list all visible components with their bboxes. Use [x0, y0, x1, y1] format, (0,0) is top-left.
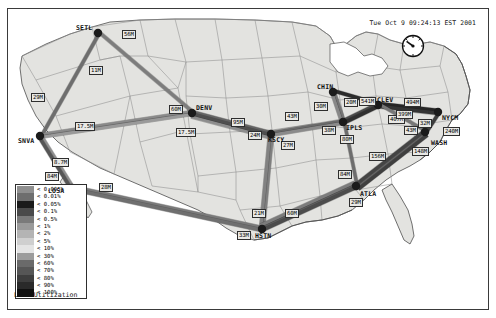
- legend-color-swatch: [17, 193, 34, 200]
- link-bandwidth-label[interactable]: 399M: [396, 110, 413, 119]
- node-label-nycm: NYCM: [442, 114, 458, 122]
- link-bandwidth-label[interactable]: 43M: [285, 112, 299, 121]
- router-node-nycm[interactable]: [434, 108, 442, 116]
- legend-threshold-label: < 30%: [34, 253, 54, 260]
- legend-color-swatch: [17, 238, 34, 245]
- legend-color-swatch: [17, 216, 34, 223]
- legend-color-swatch: [17, 208, 34, 215]
- link-bandwidth-label[interactable]: 80M: [340, 135, 354, 144]
- link-bandwidth-label[interactable]: 33M: [237, 231, 251, 240]
- legend-threshold-label: < 2%: [34, 230, 50, 237]
- legend-color-swatch: [17, 186, 34, 193]
- legend-title: Line Utilization: [14, 291, 78, 299]
- legend-threshold-label: < 1%: [34, 223, 50, 230]
- router-node-snva[interactable]: [36, 132, 44, 140]
- link-bandwidth-label[interactable]: 21M: [252, 209, 266, 218]
- legend-row: < 70%: [17, 267, 85, 274]
- legend-color-swatch: [17, 245, 34, 252]
- link-bandwidth-label[interactable]: 541M: [359, 97, 376, 106]
- node-label-ipls: IPLS: [346, 124, 362, 132]
- link-bandwidth-label[interactable]: 29M: [31, 93, 45, 102]
- line-utilization-legend: < 0.005%< 0.01%< 0.05%< 0.1%< 0.5%< 1%< …: [15, 184, 87, 299]
- link-bandwidth-label[interactable]: 30M: [314, 102, 328, 111]
- legend-row: < 0.5%: [17, 216, 85, 223]
- legend-threshold-label: < 5%: [34, 238, 50, 245]
- link-bandwidth-label[interactable]: 20M: [344, 98, 358, 107]
- legend-threshold-label: < 70%: [34, 267, 54, 274]
- link-bandwidth-label[interactable]: 24M: [248, 131, 262, 140]
- legend-color-swatch: [17, 223, 34, 230]
- node-label-atla: ATLA: [360, 190, 376, 198]
- florida-peninsula: [382, 184, 414, 244]
- link-bandwidth-label[interactable]: 28M: [99, 183, 113, 192]
- link-bandwidth-label[interactable]: 84M: [338, 170, 352, 179]
- legend-color-swatch: [17, 267, 34, 274]
- link-bandwidth-label[interactable]: 156M: [369, 152, 386, 161]
- legend-threshold-label: < 10%: [34, 245, 54, 252]
- legend-row: < 80%: [17, 275, 85, 282]
- legend-row: < 30%: [17, 253, 85, 260]
- legend-threshold-label: < 0.1%: [34, 208, 57, 215]
- legend-threshold-label: < 80%: [34, 275, 54, 282]
- legend-color-swatch: [17, 253, 34, 260]
- link-bandwidth-label[interactable]: 32M: [418, 119, 432, 128]
- node-label-chin: CHIN: [317, 83, 333, 91]
- weathermap-window: Tue Oct 9 09:24:13 EST 2001 < 0.005%< 0.…: [0, 0, 496, 318]
- router-node-wash[interactable]: [421, 128, 429, 136]
- link-bandwidth-label[interactable]: 240M: [443, 127, 460, 136]
- legend-threshold-label: < 90%: [34, 282, 54, 289]
- link-bandwidth-label[interactable]: 29M: [349, 198, 363, 207]
- router-node-setl[interactable]: [94, 29, 102, 37]
- link-bandwidth-label[interactable]: 60M: [285, 209, 299, 218]
- link-bandwidth-label[interactable]: 84M: [45, 172, 59, 181]
- link-bandwidth-label[interactable]: 17.5M: [176, 128, 196, 137]
- node-label-clev: CLEV: [377, 96, 393, 104]
- node-label-denv: DENV: [196, 104, 212, 112]
- legend-color-swatch: [17, 282, 34, 289]
- node-label-hstn: HSTN: [255, 232, 271, 240]
- legend-row: < 5%: [17, 238, 85, 245]
- node-label-setl: SETL: [76, 24, 92, 32]
- legend-row: < 10%: [17, 245, 85, 252]
- node-label-wash: WASH: [431, 139, 447, 147]
- legend-threshold-label: < 60%: [34, 260, 54, 267]
- speedometer-gauge-icon: [400, 33, 426, 59]
- node-label-kscy: KSCY: [268, 136, 284, 144]
- node-label-losa: LOSA: [48, 187, 64, 195]
- legend-color-swatch: [17, 275, 34, 282]
- link-bandwidth-label[interactable]: 148M: [412, 147, 429, 156]
- link-bandwidth-label[interactable]: 95M: [231, 118, 245, 127]
- legend-row: < 60%: [17, 260, 85, 267]
- link-bandwidth-label[interactable]: 43M: [404, 126, 418, 135]
- legend-threshold-label: < 0.5%: [34, 216, 57, 223]
- legend-row: < 0.1%: [17, 208, 85, 215]
- timestamp: Tue Oct 9 09:24:13 EST 2001: [369, 19, 476, 27]
- legend-color-swatch: [17, 260, 34, 267]
- legend-row: < 90%: [17, 282, 85, 289]
- link-bandwidth-label[interactable]: 38M: [322, 126, 336, 135]
- legend-row: < 2%: [17, 230, 85, 237]
- legend-color-swatch: [17, 230, 34, 237]
- link-bandwidth-label[interactable]: 494M: [404, 98, 421, 107]
- link-bandwidth-label[interactable]: 8.7M: [52, 158, 69, 167]
- legend-row: < 0.05%: [17, 201, 85, 208]
- link-bandwidth-label[interactable]: 17.5M: [75, 122, 95, 131]
- router-node-denv[interactable]: [188, 109, 196, 117]
- legend-threshold-label: < 0.05%: [34, 201, 61, 208]
- link-bandwidth-label[interactable]: 60M: [169, 105, 183, 114]
- link-bandwidth-label[interactable]: 11M: [89, 66, 103, 75]
- router-node-atla[interactable]: [352, 182, 360, 190]
- legend-row: < 1%: [17, 223, 85, 230]
- node-label-snva: SNVA: [18, 137, 34, 145]
- link-bandwidth-label[interactable]: 56M: [122, 30, 136, 39]
- legend-color-swatch: [17, 201, 34, 208]
